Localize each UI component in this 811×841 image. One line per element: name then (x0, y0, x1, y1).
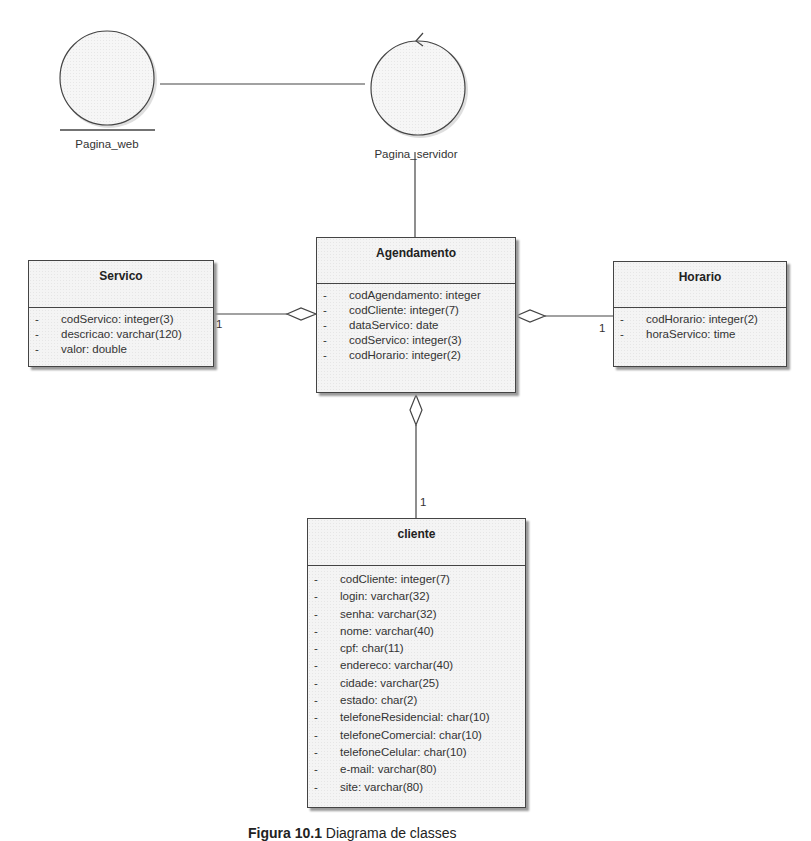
figure-caption: Figura 10.1 Diagrama de classes (248, 825, 457, 841)
attribute: -codServico: integer(3) (317, 333, 515, 348)
attribute: -codCliente: integer(7) (317, 303, 515, 318)
attribute: -codServico: integer(3) (29, 312, 213, 327)
attribute: -login: varchar(32) (308, 588, 525, 605)
attribute-list: -codAgendamento: integer -codCliente: in… (317, 284, 515, 363)
boundary-icon (60, 31, 157, 130)
attribute: -descricao: varchar(120) (29, 327, 213, 342)
attribute: -codHorario: integer(2) (317, 348, 515, 363)
class-agendamento[interactable]: Agendamento -codAgendamento: integer -co… (316, 237, 516, 393)
attribute: -telefoneCelular: char(10) (308, 744, 525, 761)
attribute: -telefoneComercial: char(10) (308, 727, 525, 744)
attribute: -site: varchar(80) (308, 779, 525, 796)
attribute: -codHorario: integer(2) (614, 312, 786, 327)
attribute: -valor: double (29, 342, 213, 357)
multiplicity-cliente: 1 (420, 496, 426, 508)
attribute: -nome: varchar(40) (308, 623, 525, 640)
class-name: cliente (308, 519, 525, 566)
attribute: -codCliente: integer(7) (308, 571, 525, 588)
class-horario[interactable]: Horario -codHorario: integer(2) -horaSer… (613, 261, 787, 367)
class-name: Servico (29, 261, 213, 308)
attribute-list: -codServico: integer(3) -descricao: varc… (29, 308, 213, 357)
class-cliente[interactable]: cliente -codCliente: integer(7) -login: … (307, 518, 526, 808)
attribute: -e-mail: varchar(80) (308, 761, 525, 778)
aggregation-diamond-icon (410, 395, 422, 425)
attribute: -cpf: char(11) (308, 640, 525, 657)
aggregation-diamond-icon (516, 310, 545, 322)
attribute: -telefoneResidencial: char(10) (308, 709, 525, 726)
attribute: -codAgendamento: integer (317, 288, 515, 303)
multiplicity-horario: 1 (599, 322, 605, 334)
class-name: Agendamento (317, 238, 515, 284)
attribute: -endereco: varchar(40) (308, 657, 525, 674)
class-servico[interactable]: Servico -codServico: integer(3) -descric… (28, 260, 214, 367)
actor-label-pagina-web: Pagina_web (75, 138, 138, 150)
actor-label-pagina-servidor: Pagina_servidor (374, 148, 457, 160)
attribute: -estado: char(2) (308, 692, 525, 709)
attribute-list: -codHorario: integer(2) -horaServico: ti… (614, 308, 786, 342)
attribute: -senha: varchar(32) (308, 606, 525, 623)
attribute-list: -codCliente: integer(7) -login: varchar(… (308, 566, 525, 796)
attribute: -cidade: varchar(25) (308, 675, 525, 692)
attribute: -dataServico: date (317, 318, 515, 333)
aggregation-diamond-icon (287, 308, 316, 320)
control-icon (371, 33, 468, 138)
multiplicity-servico: 1 (216, 318, 222, 330)
attribute: -horaServico: time (614, 327, 786, 342)
class-name: Horario (614, 262, 786, 308)
